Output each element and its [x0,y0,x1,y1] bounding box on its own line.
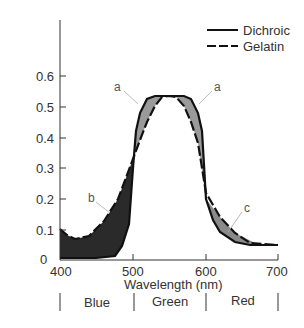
legend: Dichroic Gelatin [207,23,290,54]
x-tick-700: 700 [266,264,288,279]
y-tick-0.6: 0.6 [36,69,54,84]
y-ticks [60,76,66,230]
gelatin-curve [60,96,278,245]
y-tick-0.1: 0.1 [36,223,54,238]
x-tick-400: 400 [50,264,72,279]
y-tick-0.5: 0.5 [36,100,54,115]
annotation-a-right: a [214,80,221,94]
annotation-a-left: a [114,80,121,94]
legend-dichroic: Dichroic [243,23,290,38]
band-blue: Blue [84,295,110,310]
annotation-c: c [244,201,250,215]
y-tick-0.3: 0.3 [36,161,54,176]
annotation-b: b [88,191,95,205]
legend-gelatin: Gelatin [243,39,284,54]
x-ticks [133,254,278,260]
region-a-left [133,96,169,159]
band-green: Green [152,294,188,309]
x-axis-label: Wavelength (nm) [124,277,223,292]
y-tick-0: 0 [40,252,47,267]
y-tick-0.4: 0.4 [36,131,54,146]
band-red: Red [231,293,255,308]
y-tick-0.2: 0.2 [36,192,54,207]
density-chart: Dichroic Gelatin 0 0.1 0.2 0.3 0.4 0.5 0… [0,0,304,328]
